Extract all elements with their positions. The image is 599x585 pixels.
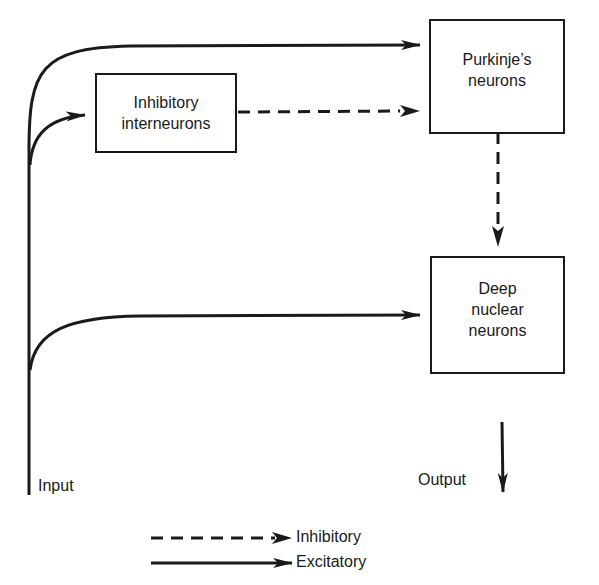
excitatory-to-deep-nuclear [30, 315, 420, 370]
legend-excitatory-label: Excitatory [296, 552, 366, 572]
excitatory-to-interneurons [30, 115, 85, 165]
inhibitory-interneurons-line-1: Inhibitory [134, 92, 199, 113]
inhibitory-interneurons-box: Inhibitory interneurons [95, 73, 237, 153]
deep-nuclear-neurons-box: Deep nuclear neurons [430, 256, 565, 374]
inhibitory-interneurons-to-purkinje [238, 111, 400, 112]
input-label: Input [38, 476, 74, 496]
deep-nuclear-line-3: neurons [469, 320, 527, 341]
inhibitory-interneurons-line-2: interneurons [122, 113, 211, 134]
deep-nuclear-line-2: nuclear [471, 299, 523, 320]
purkinje-line-1: Purkinje’s [462, 49, 531, 70]
purkinje-neurons-box: Purkinje’s neurons [429, 19, 565, 134]
purkinje-line-2: neurons [468, 70, 526, 91]
output-arrow [502, 422, 503, 492]
legend-inhibitory-label: Inhibitory [296, 527, 361, 547]
deep-nuclear-line-1: Deep [478, 278, 516, 299]
output-label: Output [418, 470, 466, 490]
